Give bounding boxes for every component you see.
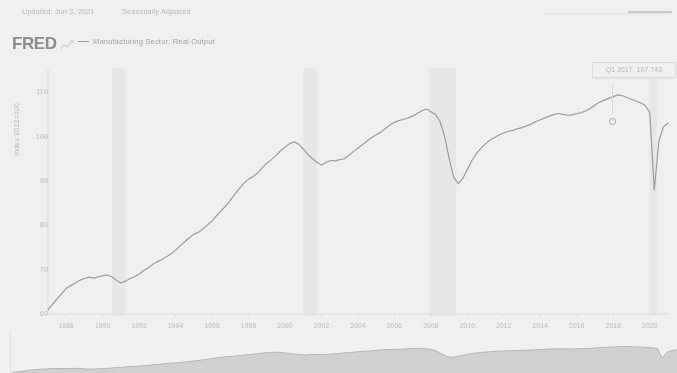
x-tick-label: 1998 <box>241 322 256 329</box>
x-tick-label: 1992 <box>131 322 146 329</box>
x-tick-label: 2014 <box>533 322 548 329</box>
mini-line-chart-icon <box>60 39 74 51</box>
legend-color-swatch <box>78 41 89 43</box>
hover-crosshair <box>612 84 613 114</box>
x-tick-label: 2020 <box>642 322 657 329</box>
series-plot <box>0 56 677 331</box>
x-tick-label: 2012 <box>496 322 511 329</box>
x-tick-label: 2018 <box>606 322 621 329</box>
y-tick-label: 100 <box>26 133 48 140</box>
legend-series-label: Manufacturing Sector: Real Output <box>93 37 215 46</box>
x-tick-label: 1994 <box>168 322 183 329</box>
x-tick-label: 2008 <box>423 322 438 329</box>
hover-point-marker <box>609 118 616 125</box>
y-axis-title: Index 2012=100 <box>13 46 20 156</box>
plot-area[interactable]: Index 2012=100 11010090807060 1988199019… <box>0 56 677 331</box>
x-tick-label: 1996 <box>204 322 219 329</box>
updated-label: Updated: Jun 3, 2021 <box>22 7 95 16</box>
x-tick-label: 2000 <box>277 322 292 329</box>
chart-legend[interactable]: Manufacturing Sector: Real Output <box>78 37 215 46</box>
meta-divider <box>545 13 670 14</box>
x-tick-label: 2016 <box>569 322 584 329</box>
x-tick-label: 2002 <box>314 322 329 329</box>
x-tick-label: 1990 <box>95 322 110 329</box>
fred-chart-screenshot: Updated: Jun 3, 2021 Seasonally Adjusted… <box>0 0 677 373</box>
x-tick-label: 2006 <box>387 322 402 329</box>
value-tooltip: Q1 2017: 107.743 <box>592 62 676 78</box>
x-tick-label: 2004 <box>350 322 365 329</box>
x-tick-label: 1988 <box>59 322 74 329</box>
y-tick-label: 60 <box>26 310 48 317</box>
meta-bar: Updated: Jun 3, 2021 Seasonally Adjusted <box>0 0 677 28</box>
chart-header: FRED Manufacturing Sector: Real Output <box>0 34 677 58</box>
x-tick-label: 2010 <box>460 322 475 329</box>
seasonal-adjustment-label: Seasonally Adjusted <box>122 7 191 16</box>
y-tick-label: 90 <box>26 177 48 184</box>
navigator-area-chart[interactable] <box>0 331 677 373</box>
y-tick-label: 110 <box>26 88 48 95</box>
range-navigator[interactable] <box>0 331 677 373</box>
y-tick-label: 80 <box>26 221 48 228</box>
meta-divider-accent <box>628 11 672 13</box>
y-tick-label: 70 <box>26 266 48 273</box>
